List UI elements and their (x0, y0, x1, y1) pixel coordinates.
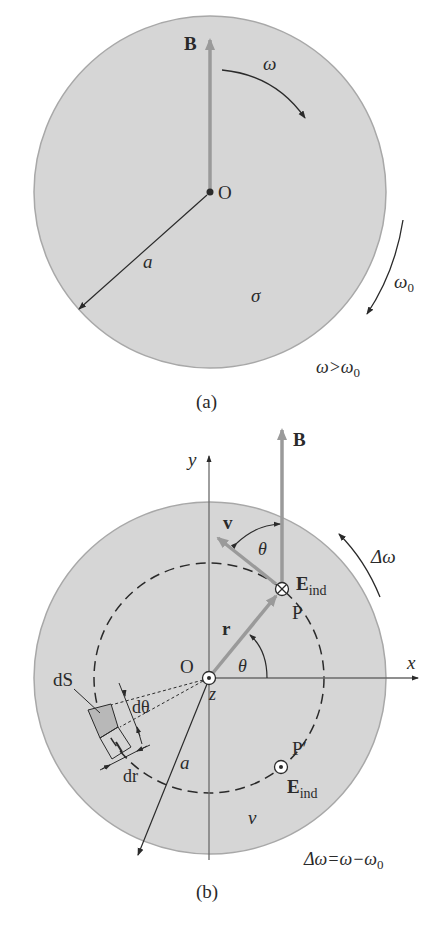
figure-canvas: B ω O a σ ω0 ω>ω0 (a) y x B v θ (0, 0, 447, 932)
theta-label-origin: θ (238, 656, 247, 676)
cross-into-page-icon (276, 583, 289, 596)
delta-omega-label: Δω (370, 546, 396, 567)
origin-dot-a (207, 189, 214, 196)
origin-label-a: O (218, 182, 232, 203)
dtheta-label: dθ (132, 697, 150, 717)
nu-label: ν (248, 807, 257, 828)
caption-a: (a) (196, 391, 217, 413)
theta-label-top: θ (258, 539, 267, 559)
ds-label: dS (53, 669, 73, 690)
dot-out-of-page-icon-origin (203, 672, 216, 685)
z-axis-label: z (208, 684, 216, 704)
p-label: P (292, 602, 303, 623)
omega0-label: ω0 (394, 271, 414, 295)
dot-out-of-page-icon-pprime (275, 761, 288, 774)
x-axis-label: x (406, 652, 416, 673)
b-label-b: B (293, 429, 306, 450)
sigma-label: σ (251, 285, 261, 306)
r-label: r (222, 618, 231, 639)
radius-label-a: a (143, 251, 153, 272)
p-prime-label: P′ (292, 738, 307, 759)
figure-a: B ω O a σ ω0 ω>ω0 (a) (34, 16, 414, 413)
b-label-a: B (184, 33, 197, 54)
relation-label: Δω=ω−ω0 (303, 849, 383, 872)
omega-label-a: ω (263, 53, 276, 74)
dr-label: dr (123, 766, 138, 786)
origin-label-b: O (180, 656, 194, 677)
caption-b: (b) (196, 881, 218, 903)
radius-label-b: a (180, 752, 190, 773)
velocity-label: v (223, 512, 233, 533)
condition-label: ω>ω0 (316, 357, 360, 380)
figure-b: y x B v θ Δω r θ Eind P (34, 429, 418, 903)
y-axis-label: y (186, 449, 197, 470)
